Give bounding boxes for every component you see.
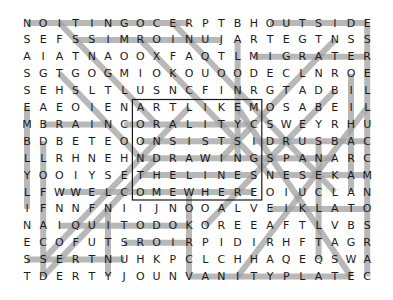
grid-letter[interactable]: H [282, 236, 290, 249]
grid-letter[interactable]: E [267, 67, 274, 80]
grid-letter[interactable]: T [314, 33, 322, 46]
grid-letter[interactable]: O [201, 202, 210, 215]
grid-letter[interactable]: R [185, 17, 193, 30]
grid-letter[interactable]: T [168, 101, 176, 114]
grid-letter[interactable]: W [184, 186, 195, 199]
grid-letter[interactable]: V [185, 270, 193, 283]
grid-letter[interactable]: A [23, 50, 31, 63]
grid-letter[interactable]: L [89, 84, 96, 97]
grid-letter[interactable]: T [71, 17, 79, 30]
grid-letter[interactable]: C [315, 186, 323, 199]
grid-letter[interactable]: O [136, 186, 145, 199]
grid-letter[interactable]: D [152, 152, 160, 165]
grid-letter[interactable]: O [55, 169, 64, 182]
grid-letter[interactable]: T [87, 135, 95, 148]
grid-letter[interactable]: N [169, 202, 177, 215]
grid-letter[interactable]: O [39, 169, 48, 182]
grid-letter[interactable]: T [249, 270, 257, 283]
grid-letter[interactable]: A [56, 50, 64, 63]
grid-letter[interactable]: C [250, 118, 258, 131]
grid-letter[interactable]: U [298, 135, 306, 148]
grid-letter[interactable]: K [299, 202, 307, 215]
grid-letter[interactable]: Q [71, 219, 80, 232]
grid-letter[interactable]: A [299, 84, 307, 97]
grid-letter[interactable]: S [202, 135, 209, 148]
grid-letter[interactable]: F [56, 33, 62, 46]
grid-letter[interactable]: F [89, 202, 95, 215]
grid-letter[interactable]: H [71, 152, 79, 165]
grid-letter[interactable]: O [217, 67, 226, 80]
grid-letter[interactable]: N [71, 202, 79, 215]
grid-letter[interactable]: D [39, 135, 47, 148]
grid-letter[interactable]: S [153, 84, 160, 97]
grid-letter[interactable]: S [364, 33, 371, 46]
grid-letter[interactable]: U [136, 84, 144, 97]
grid-letter[interactable]: K [218, 101, 226, 114]
grid-letter[interactable]: B [315, 101, 323, 114]
grid-letter[interactable]: I [139, 67, 142, 80]
grid-letter[interactable]: N [104, 202, 112, 215]
grid-letter[interactable]: I [42, 50, 45, 63]
grid-letter[interactable]: A [315, 50, 323, 63]
grid-letter[interactable]: A [104, 50, 112, 63]
grid-letter[interactable]: R [331, 118, 339, 131]
grid-letter[interactable]: S [24, 67, 31, 80]
grid-letter[interactable]: T [330, 270, 338, 283]
grid-letter[interactable]: S [331, 253, 338, 266]
grid-letter[interactable]: A [185, 50, 193, 63]
grid-letter[interactable]: L [299, 270, 306, 283]
grid-letter[interactable]: L [202, 253, 209, 266]
grid-letter[interactable]: N [23, 17, 31, 30]
grid-letter[interactable]: C [39, 236, 47, 249]
grid-letter[interactable]: N [363, 186, 371, 199]
grid-letter[interactable]: E [56, 101, 63, 114]
grid-letter[interactable]: A [234, 33, 242, 46]
grid-letter[interactable]: B [347, 219, 355, 232]
grid-letter[interactable]: T [217, 118, 225, 131]
grid-letter[interactable]: O [71, 101, 80, 114]
grid-letter[interactable]: M [362, 169, 372, 182]
grid-letter[interactable]: O [120, 135, 129, 148]
grid-letter[interactable]: G [250, 152, 259, 165]
grid-letter[interactable]: E [283, 169, 290, 182]
grid-letter[interactable]: A [169, 118, 177, 131]
grid-letter[interactable]: X [153, 50, 161, 63]
grid-letter[interactable]: E [88, 186, 95, 199]
grid-letter[interactable]: F [170, 50, 176, 63]
grid-letter[interactable]: E [315, 169, 322, 182]
grid-letter[interactable]: E [121, 169, 128, 182]
grid-letter[interactable]: I [236, 270, 239, 283]
grid-letter[interactable]: Y [233, 118, 241, 131]
grid-letter[interactable]: O [185, 202, 194, 215]
grid-letter[interactable]: I [58, 219, 61, 232]
grid-letter[interactable]: T [23, 270, 31, 283]
grid-letter[interactable]: O [136, 17, 145, 30]
grid-letter[interactable]: N [314, 67, 322, 80]
grid-letter[interactable]: K [153, 253, 161, 266]
grid-letter[interactable]: J [219, 33, 223, 46]
grid-letter[interactable]: E [24, 236, 31, 249]
grid-letter[interactable]: L [364, 101, 371, 114]
grid-letter[interactable]: T [217, 135, 225, 148]
grid-letter[interactable]: N [136, 152, 144, 165]
grid-letter[interactable]: A [39, 219, 47, 232]
grid-letter[interactable]: J [154, 202, 158, 215]
grid-letter[interactable]: D [347, 17, 355, 30]
grid-letter[interactable]: R [153, 118, 161, 131]
grid-letter[interactable]: D [39, 270, 47, 283]
grid-letter[interactable]: S [40, 253, 47, 266]
grid-letter[interactable]: A [266, 253, 274, 266]
grid-letter[interactable]: M [119, 67, 129, 80]
grid-letter[interactable]: U [120, 253, 128, 266]
grid-letter[interactable]: E [234, 101, 241, 114]
grid-letter[interactable]: L [316, 219, 323, 232]
grid-letter[interactable]: W [346, 253, 357, 266]
grid-letter[interactable]: Y [314, 118, 322, 131]
grid-letter[interactable]: E [56, 253, 63, 266]
grid-letter[interactable]: I [252, 236, 255, 249]
grid-letter[interactable]: M [249, 101, 259, 114]
grid-letter[interactable]: E [105, 135, 112, 148]
grid-letter[interactable]: S [105, 169, 112, 182]
grid-letter[interactable]: S [72, 33, 79, 46]
grid-letter[interactable]: F [283, 219, 289, 232]
